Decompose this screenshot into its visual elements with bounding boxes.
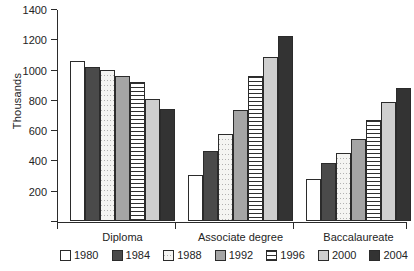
bar-group <box>188 9 293 221</box>
y-axis-tick-mark <box>51 100 57 101</box>
y-axis-tick: 400 <box>3 155 57 167</box>
legend-item[interactable]: 1988 <box>163 249 201 261</box>
y-axis-tick-zero <box>3 216 57 228</box>
legend-swatch-icon <box>318 250 329 261</box>
legend-swatch-icon <box>112 250 123 261</box>
y-axis-tick: 800 <box>3 95 57 107</box>
legend-swatch-icon <box>215 250 226 261</box>
category-label: Diploma <box>63 231 183 243</box>
bar-group <box>70 9 175 221</box>
legend-label: 1980 <box>74 249 98 261</box>
category-label: Baccalaureate <box>299 231 414 243</box>
legend-swatch-icon <box>369 250 380 261</box>
x-axis-tick <box>406 222 407 229</box>
legend-swatch-icon <box>266 250 277 261</box>
y-axis-tick-label: 600 <box>29 125 47 137</box>
bar <box>306 179 321 221</box>
y-axis-tick: 1000 <box>3 65 57 77</box>
bar <box>263 57 278 221</box>
bar <box>145 99 160 221</box>
bar <box>233 110 248 221</box>
y-axis-tick-label: 1200 <box>23 34 47 46</box>
legend-swatch-icon <box>163 250 174 261</box>
y-axis-tick-label: 200 <box>29 186 47 198</box>
y-axis-tick: 200 <box>3 186 57 198</box>
legend-label: 2004 <box>383 249 407 261</box>
bar <box>396 88 411 221</box>
bar <box>203 151 218 221</box>
legend-label: 1992 <box>229 249 253 261</box>
legend-label: 1984 <box>126 249 150 261</box>
y-axis-line <box>57 10 58 223</box>
y-axis-tick-mark <box>51 191 57 192</box>
y-axis-tick-label: 1000 <box>23 65 47 77</box>
category-label: Associate degree <box>181 231 301 243</box>
bar <box>248 76 263 221</box>
bar <box>381 102 396 221</box>
legend-item[interactable]: 1996 <box>266 249 304 261</box>
bar-chart: Thousands 200400600800100012001400 Diplo… <box>0 0 414 271</box>
bar <box>85 67 100 221</box>
y-axis-tick-mark <box>51 70 57 71</box>
bar <box>336 153 351 221</box>
bar <box>351 139 366 221</box>
x-axis-line <box>57 222 407 223</box>
legend-label: 1996 <box>280 249 304 261</box>
x-axis-tick <box>293 222 294 229</box>
bar <box>130 82 145 221</box>
y-axis-tick-mark <box>51 9 57 10</box>
legend-label: 2000 <box>332 249 356 261</box>
legend-swatch-icon <box>60 250 71 261</box>
bar <box>160 109 175 221</box>
y-axis-tick-mark <box>51 39 57 40</box>
y-axis-tick-label: 400 <box>29 155 47 167</box>
bar <box>188 175 203 221</box>
y-axis-tick-label: 800 <box>29 95 47 107</box>
y-axis-tick: 600 <box>3 125 57 137</box>
legend-item[interactable]: 2004 <box>369 249 407 261</box>
bar <box>70 61 85 222</box>
bar <box>218 134 233 221</box>
y-axis-tick-mark <box>51 160 57 161</box>
y-axis-tick: 1400 <box>3 4 57 16</box>
bar <box>115 76 130 221</box>
bar <box>278 36 293 221</box>
x-axis-tick <box>57 222 58 229</box>
legend-item[interactable]: 1992 <box>215 249 253 261</box>
legend-label: 1988 <box>177 249 201 261</box>
y-axis-tick-mark <box>51 130 57 131</box>
legend-item[interactable]: 1980 <box>60 249 98 261</box>
bar <box>321 163 336 221</box>
plot-area: 200400600800100012001400 DiplomaAssociat… <box>57 10 407 222</box>
x-axis-tick <box>175 222 176 229</box>
bar <box>100 70 115 221</box>
y-axis-tick: 1200 <box>3 34 57 46</box>
legend-item[interactable]: 2000 <box>318 249 356 261</box>
legend-item[interactable]: 1984 <box>112 249 150 261</box>
bar <box>366 120 381 221</box>
bar-group <box>306 9 411 221</box>
y-axis-tick-label: 1400 <box>23 4 47 16</box>
chart-legend: 1980198419881992199620002004 <box>60 249 408 261</box>
